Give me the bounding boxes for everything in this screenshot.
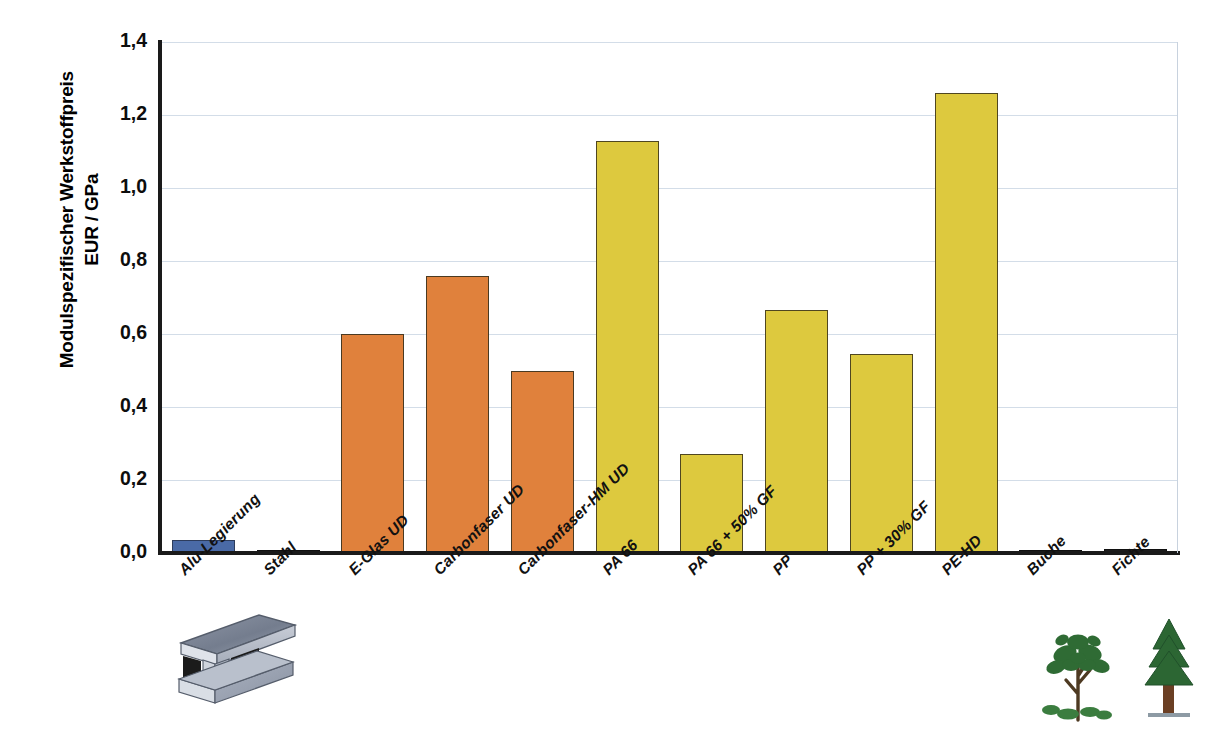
gridline [161, 480, 1178, 481]
y-tick-label: 0,2 [95, 467, 147, 490]
plot-right-border [1177, 42, 1178, 553]
y-axis-title-line-1: Modulspezifischer Werkstoffpreis [55, 0, 80, 460]
steel-i-beam-icon [167, 607, 302, 722]
y-tick-label: 0,4 [95, 394, 147, 417]
bar [426, 276, 489, 553]
y-tick-label: 0,0 [95, 540, 147, 563]
y-tick-label: 0,6 [95, 321, 147, 344]
beech-tree-icon [1038, 620, 1124, 724]
x-tick-label: PP [769, 551, 797, 579]
y-axis-title-line-2: EUR / GPa [80, 0, 105, 460]
bar [765, 310, 828, 553]
y-tick-label: 1,4 [95, 29, 147, 52]
y-tick-label: 0,8 [95, 248, 147, 271]
spruce-tree-icon [1138, 613, 1200, 725]
plot-area [161, 42, 1178, 553]
x-axis-line [158, 551, 1180, 555]
y-axis-title: Modulspezifischer Werkstoffpreis EUR / G… [55, 0, 104, 460]
gridline [161, 115, 1178, 116]
y-tick-label: 1,0 [95, 175, 147, 198]
bar-chart: Modulspezifischer Werkstoffpreis EUR / G… [0, 0, 1215, 730]
gridline [161, 42, 1178, 43]
gridline [161, 334, 1178, 335]
y-axis-line [158, 40, 162, 555]
gridline [161, 188, 1178, 189]
gridline [161, 407, 1178, 408]
y-tick-label: 1,2 [95, 102, 147, 125]
gridline [161, 261, 1178, 262]
bar [935, 93, 998, 553]
